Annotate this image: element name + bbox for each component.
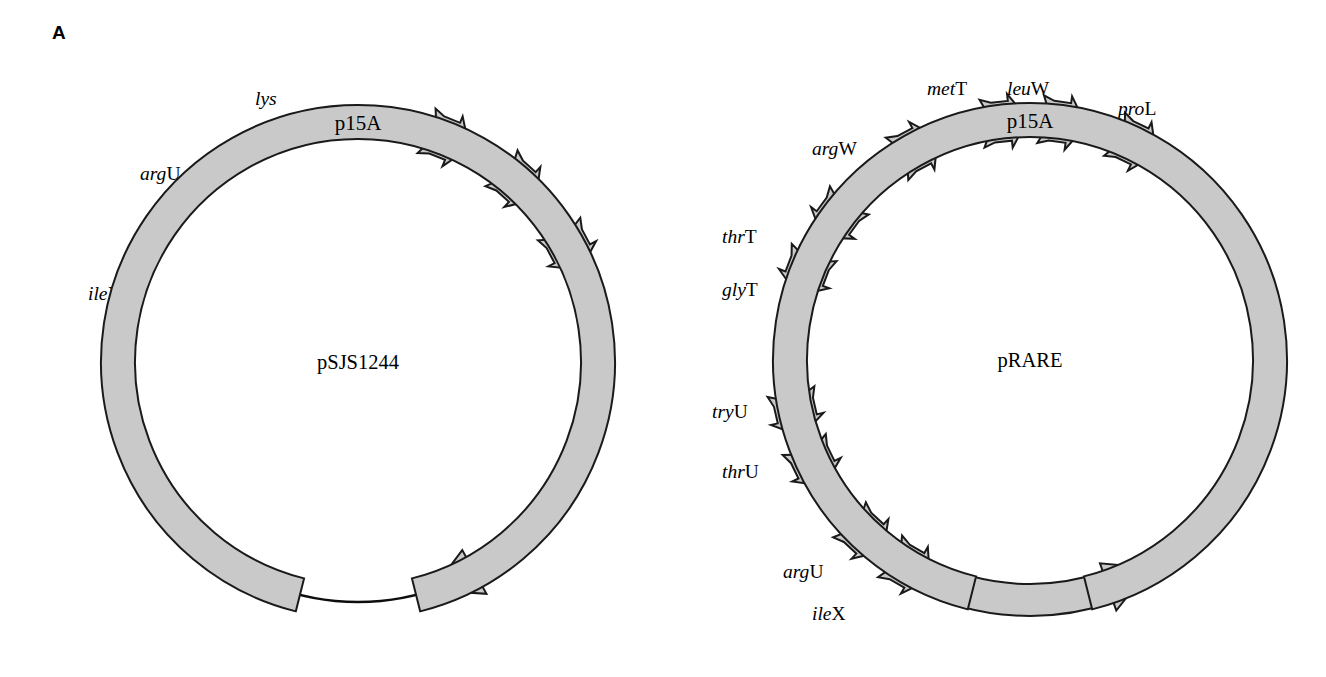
gene-label-prare-glyt: glyT <box>722 279 758 300</box>
gene-label-psjs-lys: lys <box>255 88 277 109</box>
gene-label-prare-ilex: ileX <box>812 603 846 624</box>
gene-label-prare-thru: thrU <box>722 461 759 482</box>
gene-label-prare-mett: metT <box>927 78 967 99</box>
plasmid-name-pSJS1244: pSJS1244 <box>317 351 399 374</box>
gene-label-prare-thrt: thrT <box>722 226 757 247</box>
plasmid-name-pRARE: pRARE <box>998 349 1063 372</box>
gene-label-prare-tryu: tryU <box>712 401 748 422</box>
gene-label-prare-argw: argW <box>812 138 857 159</box>
plasmid-map-pRARE: argWmetTleuWproLthrTglyTtryUthrUargUileX… <box>712 78 1287 624</box>
plasmid-map-pSJS1244: lysargUileXSpectinomycinp15ApSJS1244 <box>88 88 615 611</box>
feature-label-prare-p15a: p15A <box>1007 109 1055 133</box>
gene-label-prare-argu: argU <box>783 561 823 582</box>
gene-label-prare-leuw: leuW <box>1007 78 1050 99</box>
feature-label-psjs-p15a: p15A <box>335 111 383 135</box>
plasmid-figure: lysargUileXSpectinomycinp15ApSJS1244 arg… <box>0 0 1326 677</box>
gene-label-prare-prol: proL <box>1116 98 1156 119</box>
